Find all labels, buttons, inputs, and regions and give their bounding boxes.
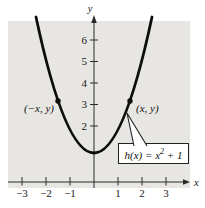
- formula-annotation: h(x) = x2 + 1: [125, 147, 183, 162]
- x-axis-label: x: [193, 177, 199, 188]
- x-tick-label-neg1: −1: [64, 187, 76, 199]
- y-axis-label: y: [87, 3, 93, 14]
- x-tick-label-3: 3: [163, 187, 169, 199]
- x-tick-label-1: 1: [115, 187, 121, 199]
- point-marker-left: [55, 98, 60, 103]
- x-tick-label-neg2: −2: [40, 187, 52, 199]
- y-tick-label-4: 4: [82, 77, 88, 89]
- y-tick-label-3: 3: [82, 98, 88, 110]
- y-tick-label-6: 6: [82, 34, 88, 46]
- figure-container: y x 6 5 4 3 2 −3 −2 −1 1 2: [0, 0, 205, 208]
- y-tick-label-2: 2: [82, 120, 88, 132]
- point-label-right: (x, y): [136, 102, 159, 115]
- point-label-left: (−x, y): [24, 102, 54, 115]
- formula-suffix: + 1: [164, 149, 182, 161]
- function-graph: y x 6 5 4 3 2 −3 −2 −1 1 2: [0, 0, 205, 208]
- x-tick-label-2: 2: [139, 187, 145, 199]
- x-tick-label-neg3: −3: [16, 187, 28, 199]
- y-tick-label-5: 5: [82, 55, 88, 67]
- formula-prefix: h(x) = x: [125, 149, 161, 162]
- y-axis-arrow-icon: [91, 15, 97, 23]
- point-marker-right: [127, 98, 132, 103]
